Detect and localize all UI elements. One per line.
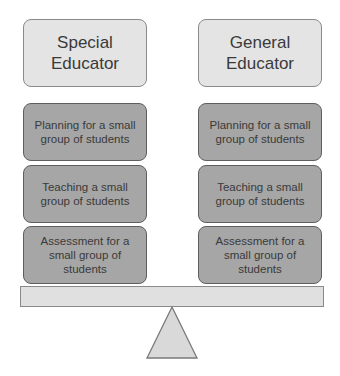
general-educator-label: General Educator — [226, 32, 294, 74]
left-planning-box: Planning for a small group of students — [23, 103, 147, 161]
left-planning-label: Planning for a small group of students — [35, 118, 136, 146]
right-assessment-label: Assessment for a small group of students — [216, 234, 305, 276]
left-teaching-label: Teaching a small group of students — [41, 180, 130, 208]
right-teaching-box: Teaching a small group of students — [198, 165, 322, 223]
left-assessment-label: Assessment for a small group of students — [41, 234, 130, 276]
left-assessment-box: Assessment for a small group of students — [23, 226, 147, 284]
fulcrum-triangle-icon — [145, 306, 199, 360]
right-planning-label: Planning for a small group of students — [210, 118, 311, 146]
special-educator-header: Special Educator — [23, 19, 147, 87]
special-educator-label: Special Educator — [51, 32, 119, 74]
right-assessment-box: Assessment for a small group of students — [198, 226, 322, 284]
left-teaching-box: Teaching a small group of students — [23, 165, 147, 223]
general-educator-header: General Educator — [198, 19, 322, 87]
right-teaching-label: Teaching a small group of students — [216, 180, 305, 208]
right-planning-box: Planning for a small group of students — [198, 103, 322, 161]
seesaw-plank — [20, 286, 324, 307]
